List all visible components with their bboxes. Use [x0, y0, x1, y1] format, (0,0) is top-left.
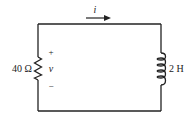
resistor-icon: [35, 57, 42, 80]
inductor-label: 2 H: [169, 63, 184, 74]
current-arrow-icon: [86, 15, 111, 21]
resistor-label: 40 Ω: [12, 63, 32, 74]
circuit-diagram: i 40 Ω + v − 2 H: [0, 0, 194, 118]
inductor-icon: [157, 53, 165, 85]
voltage-minus: −: [48, 81, 53, 91]
current-label: i: [94, 4, 97, 15]
voltage-plus: +: [48, 47, 53, 57]
voltage-label: v: [49, 63, 54, 74]
